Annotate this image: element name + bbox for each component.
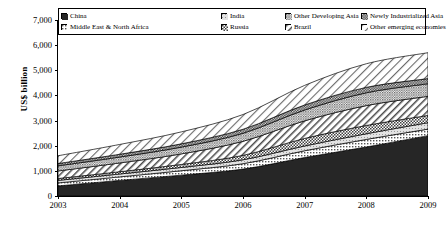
y-tick-label: 2,000: [18, 141, 52, 151]
legend-item[interactable]: Newly Industrialized Asia: [361, 10, 443, 21]
legend-swatch-icon: [61, 13, 67, 19]
legend-swatch-icon: [285, 13, 291, 19]
legend-swatch-icon: [61, 24, 67, 30]
legend-label: Other Developing Asia: [294, 12, 359, 20]
x-axis-line: [57, 196, 428, 197]
legend-swatch-icon: [221, 13, 227, 19]
legend-label: Newly Industrialized Asia: [370, 12, 443, 20]
y-tick-label: 6,000: [18, 40, 52, 50]
legend-item[interactable]: Other Developing Asia: [285, 10, 359, 21]
legend-row-2: Middle East & North AfricaRussiaBrazilOt…: [61, 21, 423, 32]
x-tick-label: 2009: [408, 200, 447, 210]
legend-swatch-icon: [285, 24, 291, 30]
legend-item[interactable]: Russia: [221, 21, 249, 32]
y-tick-label: 5,000: [18, 65, 52, 75]
x-tick-label: 2004: [100, 200, 140, 210]
x-tick-mark: [428, 196, 429, 199]
x-tick-label: 2005: [161, 200, 201, 210]
x-tick-label: 2006: [223, 200, 263, 210]
y-tick-label: 1,000: [18, 166, 52, 176]
plot-area: [58, 20, 428, 196]
legend-item[interactable]: Brazil: [285, 21, 311, 32]
legend-row-1: ChinaIndiaOther Developing AsiaNewly Ind…: [61, 10, 423, 21]
y-tick-label: 3,000: [18, 116, 52, 126]
legend-label: India: [230, 12, 244, 20]
legend-item[interactable]: India: [221, 10, 244, 21]
legend-label: Russia: [230, 23, 249, 31]
chart-figure: US$ billion 01,0002,0003,0004,0005,0006,…: [0, 0, 447, 227]
x-tick-label: 2003: [38, 200, 78, 210]
legend-swatch-icon: [361, 13, 367, 19]
chart-legend: ChinaIndiaOther Developing AsiaNewly Ind…: [58, 8, 426, 35]
x-tick-label: 2007: [285, 200, 325, 210]
legend-swatch-icon: [361, 24, 367, 30]
y-tick-label: 4,000: [18, 90, 52, 100]
legend-swatch-icon: [221, 24, 227, 30]
legend-label: China: [70, 12, 87, 20]
legend-label: Other emerging economies: [370, 23, 446, 31]
stacked-area-svg: [58, 20, 428, 196]
legend-item[interactable]: Other emerging economies: [361, 21, 446, 32]
legend-item[interactable]: Middle East & North Africa: [61, 21, 149, 32]
y-tick-label: 7,000: [18, 15, 52, 25]
legend-item[interactable]: China: [61, 10, 87, 21]
x-tick-label: 2008: [346, 200, 386, 210]
legend-label: Brazil: [294, 23, 311, 31]
legend-label: Middle East & North Africa: [70, 23, 149, 31]
